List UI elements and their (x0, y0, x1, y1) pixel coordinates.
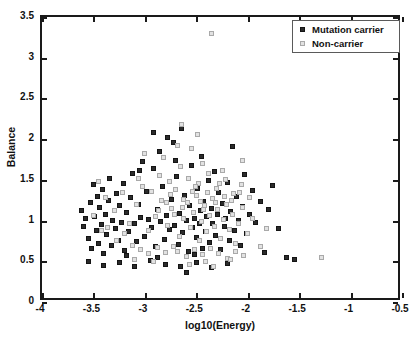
y-axis-tick (393, 58, 398, 60)
y-axis-tick (393, 221, 398, 223)
data-point-noncarrier (198, 199, 203, 204)
data-point-carrier (119, 220, 124, 225)
data-point-carrier (270, 183, 275, 188)
x-axis-tick (248, 17, 250, 22)
data-point-noncarrier (241, 253, 246, 258)
x-axis-title: log10(Energy) (40, 319, 400, 331)
y-tick-label: 2.5 (0, 91, 34, 102)
data-point-carrier (86, 236, 91, 241)
data-point-noncarrier (167, 179, 172, 184)
data-point-carrier (242, 172, 247, 177)
data-point-carrier (276, 226, 281, 231)
data-point-noncarrier (247, 195, 252, 200)
data-point-noncarrier (218, 236, 223, 241)
data-point-carrier (97, 205, 102, 210)
data-point-carrier (292, 257, 297, 262)
data-point-noncarrier (203, 259, 208, 264)
data-point-noncarrier (186, 176, 191, 181)
data-point-carrier (121, 181, 126, 186)
x-axis-tick (42, 293, 44, 298)
plot-frame (40, 15, 400, 300)
data-point-carrier (238, 243, 243, 248)
x-axis-tick (402, 293, 404, 298)
data-point-carrier (178, 264, 183, 269)
data-point-carrier (146, 217, 151, 222)
data-point-noncarrier (112, 208, 117, 213)
y-axis-tick (393, 139, 398, 141)
data-point-carrier (101, 263, 106, 268)
data-point-carrier (137, 168, 142, 173)
data-point-noncarrier (192, 247, 197, 252)
data-point-noncarrier (91, 213, 96, 218)
data-point-noncarrier (132, 257, 137, 262)
data-point-noncarrier (221, 217, 226, 222)
data-point-carrier (124, 210, 129, 215)
legend-label-noncarrier: Non-carrier (312, 38, 363, 49)
legend-marker-carrier-icon (300, 27, 305, 32)
data-point-carrier (130, 171, 135, 176)
x-tick-label: -1.5 (289, 303, 306, 314)
data-point-carrier (89, 246, 94, 251)
data-point-carrier (177, 211, 182, 216)
data-point-noncarrier (220, 168, 225, 173)
data-point-noncarrier (245, 231, 250, 236)
data-point-noncarrier (228, 257, 233, 262)
data-point-noncarrier (208, 246, 213, 251)
data-point-noncarrier (130, 243, 135, 248)
data-point-noncarrier (231, 191, 236, 196)
data-point-carrier (109, 243, 114, 248)
data-point-noncarrier (105, 225, 110, 230)
data-point-noncarrier (99, 228, 104, 233)
data-point-carrier (124, 253, 129, 258)
data-point-noncarrier (211, 264, 216, 269)
data-point-noncarrier (250, 216, 255, 221)
data-point-carrier (79, 208, 84, 213)
x-tick-label: -4 (36, 303, 45, 314)
data-point-carrier (103, 212, 108, 217)
y-axis-tick (393, 17, 398, 19)
data-point-carrier (184, 270, 189, 275)
y-tick-label: 3.5 (0, 10, 34, 21)
data-point-noncarrier (212, 224, 217, 229)
data-point-noncarrier (142, 151, 147, 156)
data-point-noncarrier (199, 219, 204, 224)
data-point-noncarrier (191, 210, 196, 215)
x-axis-tick (196, 17, 198, 22)
data-point-noncarrier (156, 208, 161, 213)
y-axis-tick (42, 17, 47, 19)
data-point-noncarrier (146, 251, 151, 256)
x-axis-tick (196, 293, 198, 298)
data-point-noncarrier (173, 187, 178, 192)
data-point-noncarrier (207, 213, 212, 218)
data-point-noncarrier (180, 205, 185, 210)
data-point-noncarrier (216, 251, 221, 256)
data-point-carrier (138, 215, 143, 220)
data-point-noncarrier (146, 228, 151, 233)
data-point-noncarrier (233, 241, 238, 246)
data-point-carrier (142, 234, 147, 239)
data-point-noncarrier (223, 177, 228, 182)
y-axis-tick (42, 180, 47, 182)
x-axis-tick (351, 293, 353, 298)
data-point-noncarrier (240, 205, 245, 210)
data-point-noncarrier (122, 231, 127, 236)
data-point-carrier (176, 242, 181, 247)
data-point-carrier (86, 259, 91, 264)
data-point-noncarrier (187, 262, 192, 267)
data-point-noncarrier (237, 190, 242, 195)
data-point-carrier (163, 262, 168, 267)
data-point-carrier (117, 203, 122, 208)
data-point-noncarrier (175, 249, 180, 254)
data-point-carrier (132, 221, 137, 226)
data-point-carrier (199, 154, 204, 159)
data-point-carrier (96, 241, 101, 246)
data-point-noncarrier (213, 200, 218, 205)
data-point-noncarrier (204, 229, 209, 234)
y-tick-label: 1.5 (0, 172, 34, 183)
data-point-noncarrier (120, 190, 125, 195)
data-point-noncarrier (165, 223, 170, 228)
data-point-noncarrier (175, 143, 180, 148)
y-tick-label: 0 (0, 295, 34, 306)
data-point-noncarrier (103, 195, 108, 200)
data-point-noncarrier (177, 234, 182, 239)
